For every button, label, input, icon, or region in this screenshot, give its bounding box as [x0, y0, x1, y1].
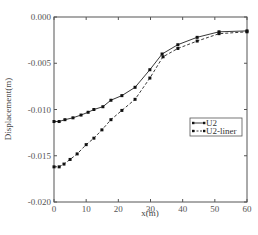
legend: U2U2-liner	[190, 118, 242, 136]
x-tick-label: 50	[210, 204, 220, 214]
data-point-marker	[120, 94, 123, 97]
y-tick-label: -0.020	[28, 197, 52, 207]
plot-area-border	[54, 17, 247, 202]
data-point-marker	[162, 55, 165, 58]
data-series	[53, 29, 249, 168]
data-point-marker	[120, 109, 123, 112]
data-point-marker	[161, 53, 164, 56]
data-point-marker	[176, 43, 179, 46]
data-point-marker	[134, 98, 137, 101]
data-point-marker	[76, 152, 79, 155]
y-tick-label: -0.005	[28, 58, 52, 68]
data-point-marker	[53, 165, 56, 168]
data-point-marker	[134, 86, 137, 89]
x-tick-label: 20	[114, 204, 124, 214]
line-chart: 01020304050600.000-0.005-0.010-0.015-0.0…	[0, 0, 258, 235]
y-tick-label: -0.010	[28, 105, 52, 115]
data-point-marker	[71, 116, 74, 119]
y-axis-label: Displacement(m)	[3, 78, 13, 140]
plot-frame	[54, 17, 247, 202]
data-point-marker	[148, 77, 151, 80]
x-tick-label: 0	[52, 204, 57, 214]
data-point-marker	[62, 163, 65, 166]
legend-marker-icon	[192, 122, 194, 124]
data-point-marker	[92, 137, 95, 140]
legend-label: U2-liner	[206, 126, 237, 136]
data-point-marker	[148, 68, 151, 71]
legend-marker-icon	[192, 130, 194, 132]
data-point-marker	[92, 108, 95, 111]
data-point-marker	[109, 99, 112, 102]
data-point-marker	[85, 143, 88, 146]
data-point-marker	[109, 118, 112, 121]
data-point-marker	[196, 40, 199, 43]
x-tick-label: 60	[243, 204, 253, 214]
x-tick-label: 40	[178, 204, 188, 214]
data-point-marker	[87, 111, 90, 114]
data-point-marker	[69, 158, 72, 161]
data-point-marker	[58, 165, 61, 168]
x-tick-label: 10	[82, 204, 92, 214]
series-line-u2-liner	[54, 32, 247, 167]
data-point-marker	[246, 30, 249, 33]
data-point-marker	[196, 36, 199, 39]
axis-ticks: 01020304050600.000-0.005-0.010-0.015-0.0…	[28, 12, 252, 214]
data-point-marker	[53, 120, 56, 123]
data-point-marker	[80, 114, 83, 117]
data-point-marker	[218, 32, 221, 35]
data-point-marker	[176, 47, 179, 50]
data-point-marker	[101, 105, 104, 108]
data-point-marker	[63, 118, 66, 121]
data-point-marker	[58, 120, 61, 123]
series-line-u2	[54, 31, 247, 122]
y-tick-label: 0.000	[31, 12, 52, 22]
x-axis-label: x(m)	[141, 208, 159, 218]
data-point-marker	[100, 128, 103, 131]
y-tick-label: -0.015	[28, 151, 52, 161]
